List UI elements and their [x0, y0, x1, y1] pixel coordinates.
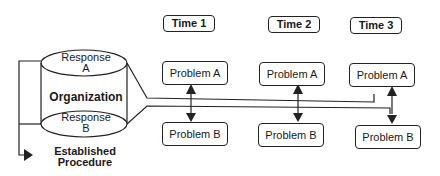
response-b-line2: B [58, 123, 114, 134]
time-1-problem-a: Problem A [162, 61, 228, 85]
time-1-label: Time 1 [163, 15, 215, 32]
time-1-problem-b: Problem B [162, 122, 228, 146]
response-b-label: Response B [58, 112, 114, 134]
time-3-label: Time 3 [350, 17, 402, 34]
organization-label: Organization [46, 92, 126, 103]
time-2-problem-b: Problem B [258, 123, 324, 147]
established-line2: Procedure [40, 157, 130, 168]
time-2-problem-a: Problem A [259, 62, 325, 86]
time-2-label: Time 2 [268, 16, 320, 33]
time-3-problem-a: Problem A [349, 63, 415, 87]
established-procedure-label: Established Procedure [40, 146, 130, 168]
time-3-problem-b: Problem B [355, 125, 421, 149]
response-a-line2: A [58, 63, 114, 74]
response-a-label: Response A [58, 52, 114, 74]
